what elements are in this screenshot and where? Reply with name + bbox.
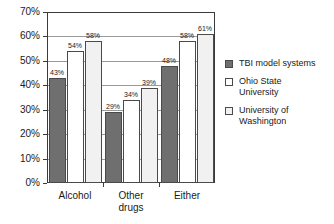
bar-group [161, 12, 214, 183]
y-axis-tick-label: 10% [20, 154, 40, 164]
bar [197, 34, 214, 183]
legend-label: TBI model systems [239, 58, 316, 69]
legend-item[interactable]: University ofWashington [225, 105, 331, 127]
y-axis: 0%10%20%30%40%50%60%70% [0, 0, 45, 196]
legend-label-line: University [239, 87, 282, 98]
bar [161, 66, 178, 183]
bars-layer: 43%54%58%29%34%39%48%58%61% [47, 12, 215, 183]
legend-label-line: Washington [239, 116, 289, 127]
legend-item[interactable]: TBI model systems [225, 58, 331, 69]
bar [67, 51, 84, 183]
x-axis-tick-label-line: drugs [96, 202, 166, 214]
bar [141, 88, 158, 183]
bar-group [49, 12, 102, 183]
y-axis-tick-label: 30% [20, 105, 40, 115]
legend-label-line: TBI model systems [239, 58, 316, 69]
legend-swatch-icon [225, 60, 233, 68]
x-axis-tick-label: Either [152, 190, 222, 202]
chart-container: 0%10%20%30%40%50%60%70% 43%54%58%29%34%3… [0, 0, 334, 224]
y-axis-tick-label: 70% [20, 7, 40, 17]
bar [49, 78, 66, 183]
legend-label-line: Ohio State [239, 76, 282, 87]
y-axis-tick-label: 40% [20, 80, 40, 90]
bar [105, 112, 122, 183]
legend-label: University ofWashington [239, 105, 289, 127]
x-axis-tick-mark [159, 183, 160, 187]
y-axis-tick-mark [43, 183, 47, 184]
legend-swatch-icon [225, 78, 233, 86]
bar-group [105, 12, 158, 183]
legend-label-line: University of [239, 105, 289, 116]
bar [123, 100, 140, 183]
legend-item[interactable]: Ohio StateUniversity [225, 76, 331, 98]
bar [179, 41, 196, 183]
y-axis-tick-label: 60% [20, 31, 40, 41]
legend: TBI model systemsOhio StateUniversityUni… [225, 58, 331, 134]
y-axis-tick-label: 0% [26, 178, 40, 188]
legend-label: Ohio StateUniversity [239, 76, 282, 98]
y-axis-tick-label: 50% [20, 56, 40, 66]
legend-swatch-icon [225, 107, 233, 115]
x-axis-tick-label-line: Either [152, 190, 222, 202]
y-axis-tick-label: 20% [20, 129, 40, 139]
bar [85, 41, 102, 183]
x-axis-tick-mark [103, 183, 104, 187]
